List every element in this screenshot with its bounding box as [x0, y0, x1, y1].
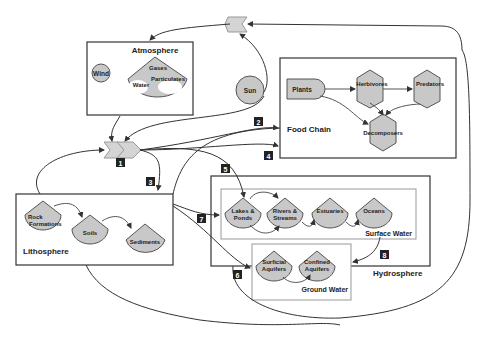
water-label: Water: [133, 82, 150, 88]
pathway-label-2: 2: [257, 119, 261, 126]
decomposers-label: Decomposers: [363, 130, 403, 136]
herbivores-node: [357, 70, 383, 108]
lithosphere-box: Rock Formations Soils Sediments Lithosph…: [16, 194, 173, 265]
pathway-label-7: 7: [200, 216, 204, 223]
central-chevrons: [104, 142, 141, 158]
hydrosphere-title: Hydrosphere: [373, 269, 423, 278]
predators-node: [414, 70, 440, 108]
ground-water-title: Ground Water: [302, 286, 349, 293]
wind-label: Wind: [93, 70, 109, 77]
oceans-label: Oceans: [363, 208, 385, 214]
soils-label: Soils: [83, 230, 98, 236]
pathway-label-1: 1: [119, 160, 123, 167]
pathway-label-4: 4: [267, 153, 271, 160]
herbivores-label: Herbivores: [356, 81, 388, 87]
ecosystem-diagram: Atmosphere Wind Gases Particulates Water…: [0, 0, 482, 341]
confined-label: Confined: [304, 259, 330, 265]
rock-label: Rock: [28, 214, 43, 220]
surficial-aquifers-label: Aquifers: [262, 266, 287, 272]
pathway-label-6: 6: [236, 272, 240, 279]
pathway-label-3: 3: [149, 179, 153, 186]
ponds-label: Ponds: [234, 215, 253, 221]
gases-label: Gases: [149, 65, 168, 71]
formations-label: Formations: [29, 221, 62, 227]
atmosphere-title: Atmosphere: [132, 46, 179, 55]
food-chain-box: Plants Herbivores Predators Decomposers …: [280, 58, 456, 158]
streams-label: Streams: [273, 215, 297, 221]
lithosphere-title: Lithosphere: [23, 247, 69, 256]
atmosphere-box: Atmosphere Wind Gases Particulates Water: [87, 42, 193, 115]
food-chain-title: Food Chain: [287, 125, 331, 134]
lakes-label: Lakes &: [231, 208, 255, 214]
particulates-label: Particulates: [151, 76, 186, 82]
predators-label: Predators: [416, 81, 445, 87]
pathway-label-5: 5: [224, 166, 228, 173]
estuaries-label: Estuaries: [316, 208, 344, 214]
pathway-label-8: 8: [383, 252, 387, 259]
sediments-label: Sediments: [130, 239, 161, 245]
sun-label: Sun: [244, 87, 256, 94]
surface-water-title: Surface Water: [365, 230, 412, 237]
plants-label: Plants: [292, 86, 312, 93]
surficial-label: Surficial: [262, 259, 286, 265]
confined-aquifers-label: Aquifers: [305, 266, 330, 272]
rivers-label: Rivers &: [273, 208, 298, 214]
